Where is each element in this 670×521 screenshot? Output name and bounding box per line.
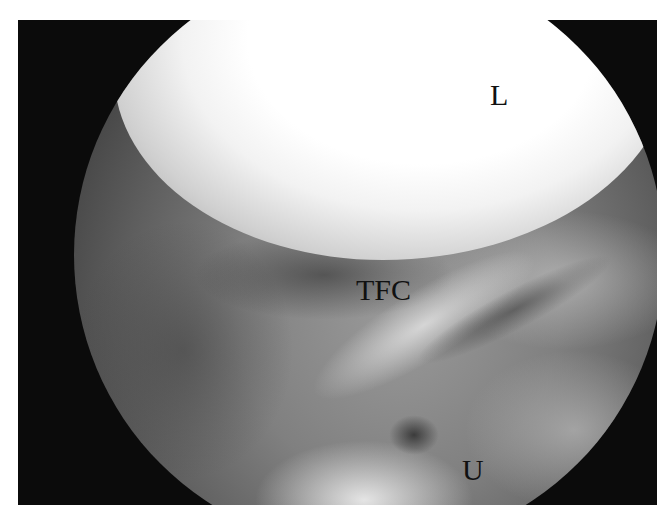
label-tfc: TFC bbox=[356, 275, 411, 305]
label-lunate: L bbox=[490, 80, 508, 110]
arthroscopy-image-frame bbox=[18, 20, 657, 505]
arthroscope-field-of-view bbox=[74, 20, 657, 505]
label-ulna: U bbox=[462, 455, 484, 485]
ulnar-head-region bbox=[464, 350, 657, 505]
dark-pocket bbox=[389, 415, 439, 455]
lower-bright-region bbox=[254, 440, 474, 505]
